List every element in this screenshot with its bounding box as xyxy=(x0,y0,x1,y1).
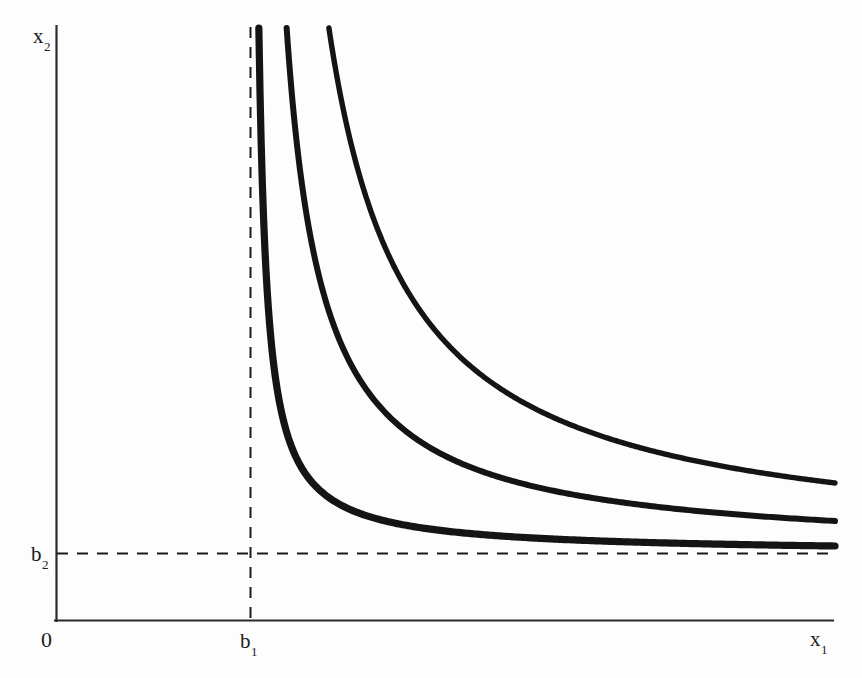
y-axis-label: x2 xyxy=(33,26,50,50)
figure-container: x2 x1 b1 b2 0 xyxy=(0,0,862,678)
y-axis-label-subscript: 2 xyxy=(44,39,51,54)
b1-tick-label: b1 xyxy=(240,631,257,655)
b2-tick-label: b2 xyxy=(31,544,48,568)
indifference-curve-plot xyxy=(0,0,862,678)
render-canvas xyxy=(0,0,862,678)
x-axis-label-subscript: 1 xyxy=(821,642,828,657)
b2-subscript: 2 xyxy=(42,557,49,572)
x-axis-label: x1 xyxy=(810,629,827,653)
render xyxy=(0,0,862,678)
origin-label: 0 xyxy=(41,629,52,651)
b1-subscript: 1 xyxy=(251,644,258,659)
